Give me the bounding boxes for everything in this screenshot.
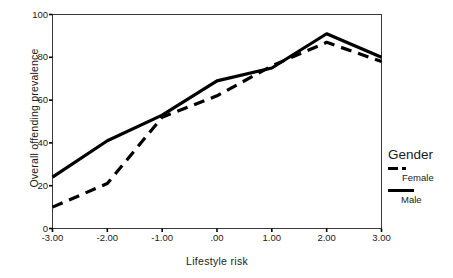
legend-label-female: Female — [402, 173, 453, 183]
x-tick-label: 2.00 — [300, 233, 354, 243]
x-tick-label: 3.00 — [355, 233, 409, 243]
x-tick-label: -3.00 — [26, 233, 80, 243]
plot-frame — [53, 15, 382, 229]
legend-swatch-dashed-icon — [388, 164, 414, 173]
x-tick-label: -1.00 — [135, 233, 189, 243]
legend-swatch-solid-icon — [388, 186, 414, 195]
x-tick-label: 1.00 — [245, 233, 299, 243]
x-tick-label: .00 — [190, 233, 244, 243]
x-axis-tick-labels: -3.00-2.00-1.00.001.002.003.00 — [0, 233, 453, 249]
x-axis-title: Lifestyle risk — [52, 255, 382, 267]
legend-title: Gender — [388, 148, 453, 162]
chart-figure: 020406080100 -3.00-2.00-1.00.001.002.003… — [0, 0, 453, 278]
x-tick-label: -2.00 — [80, 233, 134, 243]
chart-legend: Gender Female Male — [388, 148, 453, 205]
legend-label-male: Male — [401, 195, 453, 205]
y-axis-title: Overall offending prevalence — [28, 18, 40, 218]
legend-entry-male: Male — [388, 186, 453, 205]
legend-entry-female: Female — [388, 164, 453, 183]
